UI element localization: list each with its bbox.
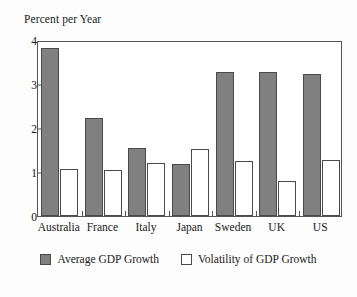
bar-growth <box>128 148 146 216</box>
legend-swatch-volatility-icon <box>181 254 192 265</box>
legend-item[interactable]: Average GDP Growth <box>40 253 159 265</box>
x-tick-mark <box>256 211 257 216</box>
bar-group <box>299 40 343 216</box>
bar-growth <box>85 118 103 216</box>
x-tick-mark <box>299 211 300 216</box>
y-tick-label: 0 <box>23 211 37 223</box>
bar-group <box>125 40 169 216</box>
bar-growth <box>172 164 190 216</box>
bar-volatility <box>60 169 78 216</box>
bar-growth <box>216 72 234 216</box>
bar-group <box>169 40 213 216</box>
y-tick-label: 4 <box>23 35 37 47</box>
chart-figure: Percent per Year 01234 Average GDP Growt… <box>0 0 357 297</box>
x-tick-mark <box>169 211 170 216</box>
y-tick-label: 2 <box>23 123 37 135</box>
x-tick-mark <box>82 211 83 216</box>
x-category-label: Australia <box>38 221 80 233</box>
legend-label: Volatility of GDP Growth <box>198 253 317 265</box>
bar-group <box>256 40 300 216</box>
bar-group <box>38 40 82 216</box>
bar-volatility <box>191 149 209 216</box>
x-category-label: UK <box>268 221 285 233</box>
bar-group <box>212 40 256 216</box>
x-category-label: US <box>313 221 328 233</box>
bar-volatility <box>104 170 122 216</box>
x-category-label: France <box>87 221 118 233</box>
x-category-label: Italy <box>135 221 156 233</box>
y-tick-label: 3 <box>23 79 37 91</box>
bar-growth <box>303 74 321 216</box>
bar-volatility <box>235 161 253 216</box>
x-tick-mark <box>125 211 126 216</box>
bar-growth <box>259 72 277 216</box>
x-tick-mark <box>212 211 213 216</box>
plot-area <box>37 41 342 217</box>
y-tick-label: 1 <box>23 167 37 179</box>
legend-swatch-growth-icon <box>40 254 51 265</box>
bar-volatility <box>322 160 340 216</box>
y-axis: 01234 <box>18 41 37 217</box>
bar-volatility <box>147 163 165 216</box>
x-category-label: Sweden <box>215 221 251 233</box>
legend-label: Average GDP Growth <box>57 253 159 265</box>
legend-item[interactable]: Volatility of GDP Growth <box>181 253 317 265</box>
bar-growth <box>41 48 59 216</box>
bar-volatility <box>278 181 296 216</box>
y-axis-title: Percent per Year <box>24 13 101 25</box>
x-category-label: Japan <box>176 221 202 233</box>
bar-group <box>82 40 126 216</box>
chart-legend: Average GDP GrowthVolatility of GDP Grow… <box>0 253 357 265</box>
